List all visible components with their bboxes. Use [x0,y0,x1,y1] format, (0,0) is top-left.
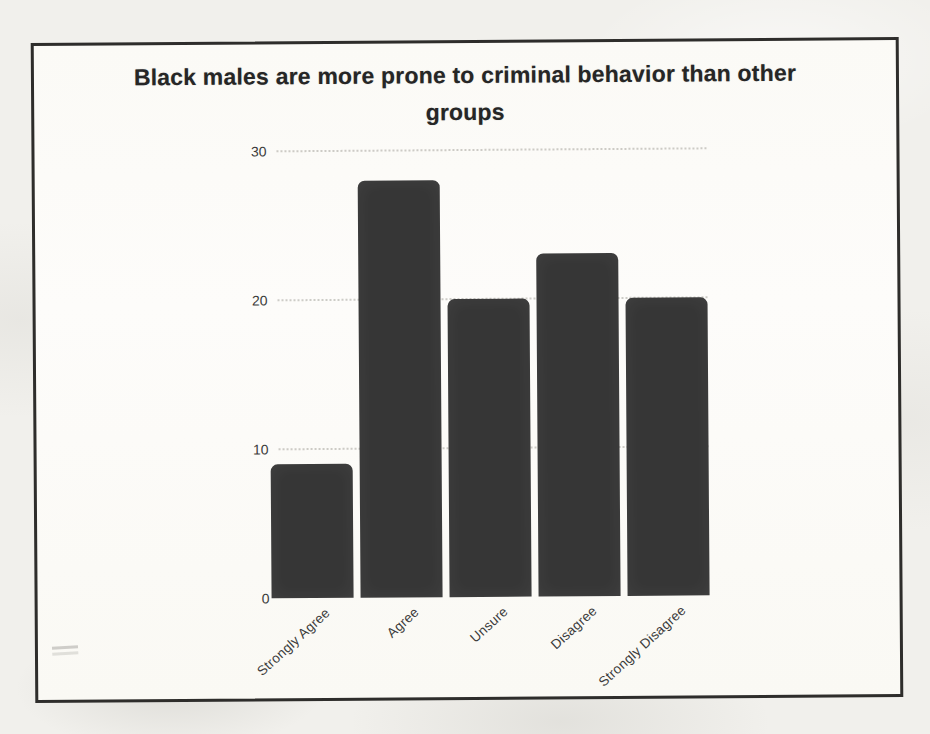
bar-agree [358,180,443,598]
gridline-30 [276,147,706,152]
chart-title: Black males are more prone to criminal b… [115,55,815,134]
chart-title-line-2: groups [115,92,815,134]
y-tick-label-30: 30 [190,141,266,162]
bar-disagree [536,253,620,596]
scanned-page: Black males are more prone to criminal b… [0,0,930,734]
y-tick-label-10: 10 [192,439,268,460]
bar-strongly-agree [271,464,354,599]
chart-title-line-1: Black males are more prone to criminal b… [115,55,815,97]
bar-chart-plot: 0102030Strongly AgreeAgreeUnsureDisagree… [34,40,896,46]
y-tick-label-20: 20 [191,290,267,311]
bar-unsure [448,299,532,598]
y-tick-label-0: 0 [194,588,270,609]
chart-frame: Black males are more prone to criminal b… [31,37,904,703]
bar-strongly-disagree [626,297,710,596]
